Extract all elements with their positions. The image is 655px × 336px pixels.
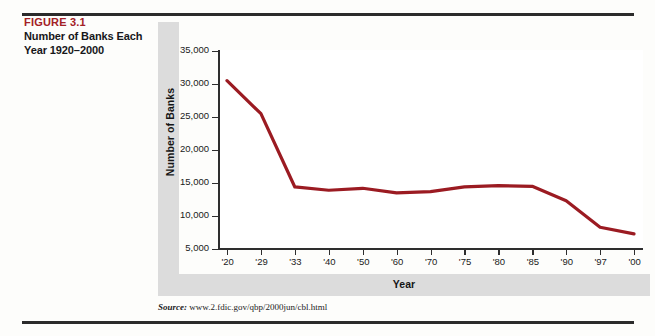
x-axis-tick: '20 [227, 250, 228, 255]
source-url: www.2.fdic.gov/qbp/2000jun/cbl.html [189, 302, 327, 312]
x-axis-tick-label: '00 [628, 256, 640, 267]
x-axis-tick: '85 [532, 250, 533, 255]
x-axis-tick-label: '90 [561, 256, 573, 267]
x-axis-tick: '00 [634, 250, 635, 255]
figure-chart-area: Number of Banks Year 35,00030,00025,0002… [158, 22, 650, 297]
x-axis-tick-label: '85 [527, 256, 539, 267]
x-axis-tick-label: '33 [289, 256, 301, 267]
figure-title: Number of Banks Each Year 1920–2000 [24, 30, 159, 57]
x-axis-tick: '60 [397, 250, 398, 255]
figure-caption: FIGURE 3.1 Number of Banks Each Year 192… [24, 16, 159, 57]
x-axis-tick: '29 [261, 250, 262, 255]
x-axis-tick-label: '50 [357, 256, 369, 267]
y-axis-title: Number of Banks [164, 75, 176, 190]
x-axis-tick-label: '80 [493, 256, 505, 267]
x-axis-tick: '33 [295, 250, 296, 255]
x-axis-tick: '80 [498, 250, 499, 255]
data-series-line [218, 50, 643, 250]
x-axis-tick-label: '70 [425, 256, 437, 267]
y-axis-tick-label: 25,000 [180, 110, 209, 121]
x-axis-tick: '70 [431, 250, 432, 255]
figure-number: FIGURE 3.1 [24, 16, 159, 29]
x-axis-title: Year [158, 278, 650, 290]
x-axis-tick: '40 [329, 250, 330, 255]
x-axis-tick: '97 [600, 250, 601, 255]
y-axis-tick-label: 20,000 [180, 143, 209, 154]
source-label: Source: [158, 302, 187, 312]
bottom-rule [22, 321, 634, 324]
x-axis-tick-label: '29 [255, 256, 267, 267]
x-axis-tick-label: '60 [391, 256, 403, 267]
x-axis-tick: '90 [566, 250, 567, 255]
x-axis-tick-label: '97 [595, 256, 607, 267]
source-note: Source: www.2.fdic.gov/qbp/2000jun/cbl.h… [158, 302, 327, 312]
x-axis-tick-label: '20 [221, 256, 233, 267]
y-axis-tick-label: 30,000 [180, 77, 209, 88]
plot-area: 35,00030,00025,00020,00015,00010,0005,00… [218, 50, 643, 250]
x-axis-tick-label: '75 [459, 256, 471, 267]
x-axis-tick-label: '40 [323, 256, 335, 267]
x-axis-tick: '75 [464, 250, 465, 255]
y-axis-tick-label: 10,000 [180, 209, 209, 220]
y-axis-tick-label: 35,000 [180, 44, 209, 55]
y-axis-tick-label: 5,000 [185, 242, 209, 253]
x-axis-tick: '50 [363, 250, 364, 255]
y-axis-tick-label: 15,000 [180, 176, 209, 187]
